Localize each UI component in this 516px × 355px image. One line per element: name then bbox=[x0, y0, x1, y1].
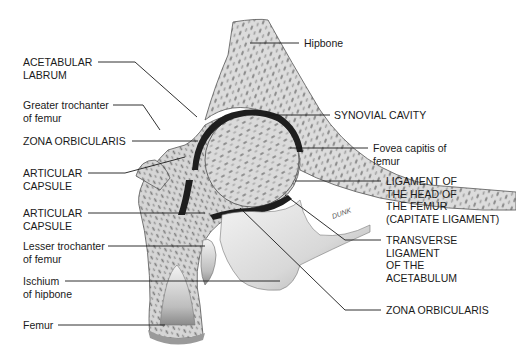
label-synovial-cavity: SYNOVIAL CAVITY bbox=[334, 109, 426, 122]
label-lesser-trochanter: Lesser trochanter of femur bbox=[23, 240, 105, 265]
femoral-head-shape bbox=[205, 113, 299, 207]
label-hipbone: Hipbone bbox=[304, 37, 343, 50]
label-greater-trochanter: Greater trochanter of femur bbox=[23, 99, 109, 124]
label-fovea-capitis: Fovea capitis of femur bbox=[373, 142, 447, 167]
label-zona-orbicularis-left: ZONA ORBICULARIS bbox=[23, 135, 126, 148]
label-zona-orbicularis-right: ZONA ORBICULARIS bbox=[386, 304, 489, 317]
label-transverse-ligament: TRANSVERSE LIGAMENT OF THE ACETABULUM bbox=[386, 234, 457, 284]
label-ischium: Ischium of hipbone bbox=[23, 275, 72, 300]
label-articular-capsule-upper: ARTICULAR CAPSULE bbox=[23, 167, 82, 192]
artist-signature: DUNK bbox=[331, 206, 352, 219]
label-ligament-head-femur: LIGAMENT OF THE HEAD OF THE FEMUR (CAPIT… bbox=[386, 175, 499, 225]
label-femur: Femur bbox=[23, 319, 53, 332]
label-acetabular-labrum: ACETABULAR LABRUM bbox=[23, 56, 92, 81]
label-articular-capsule-lower: ARTICULAR CAPSULE bbox=[23, 207, 82, 232]
